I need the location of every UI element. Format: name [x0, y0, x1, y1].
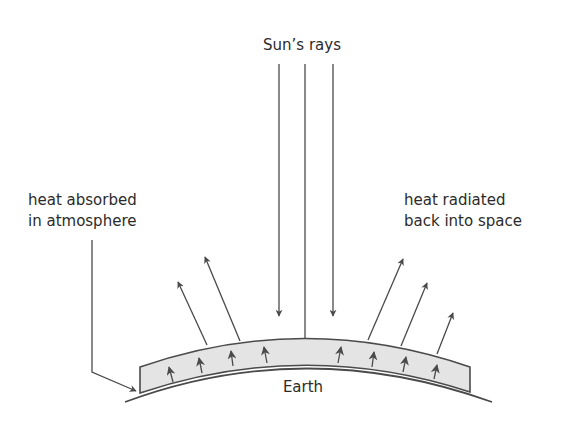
sun-rays — [279, 64, 333, 346]
earth-label: Earth — [283, 378, 323, 396]
outgoing-arrow-icon — [401, 283, 427, 346]
svg-text:back into space: back into space — [404, 212, 522, 230]
outgoing-arrow-icon — [368, 259, 403, 340]
svg-text:heat radiated: heat radiated — [404, 191, 505, 209]
leader-arrow-icon — [92, 240, 136, 391]
outgoing-arrow-icon — [178, 282, 207, 345]
heat-absorbed-label: heat absorbed in atmosphere — [28, 191, 137, 230]
heat-radiated-label: heat radiated back into space — [404, 191, 522, 230]
greenhouse-diagram: Sun’s rays heat absorbed in atmosphere h… — [0, 0, 569, 429]
svg-text:heat absorbed: heat absorbed — [28, 191, 137, 209]
sun-rays-label: Sun’s rays — [263, 36, 341, 54]
outgoing-arrow-icon — [437, 313, 453, 354]
outgoing-arrow-icon — [205, 257, 240, 341]
svg-text:in atmosphere: in atmosphere — [28, 212, 136, 230]
